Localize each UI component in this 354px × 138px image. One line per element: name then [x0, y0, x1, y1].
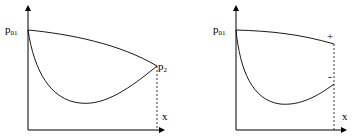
left-p01-label: p01 [5, 23, 18, 37]
left-diagram: p01 p2 x [5, 8, 168, 130]
diagram-canvas: p01 p2 x p01 + - x [0, 0, 354, 138]
right-diagram: p01 + - x [213, 8, 348, 130]
right-p01-label: p01 [213, 23, 226, 37]
left-x-label: x [162, 110, 168, 122]
right-x-label: x [342, 110, 348, 122]
right-plus-label: + [327, 30, 333, 42]
right-minus-label: - [328, 70, 332, 82]
right-upper-curve [236, 30, 334, 44]
left-upper-curve [28, 30, 157, 66]
left-p2-label: p2 [158, 60, 168, 74]
right-lower-curve [236, 30, 334, 104]
